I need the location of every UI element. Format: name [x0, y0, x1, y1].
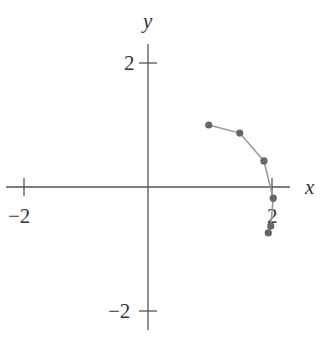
- x-axis-label: x: [304, 175, 315, 199]
- x-tick-label: −2: [8, 204, 30, 228]
- axes: [6, 44, 290, 330]
- data-point-marker: [236, 129, 243, 136]
- data-point-marker: [205, 121, 212, 128]
- y-tick-label: 2: [124, 51, 135, 75]
- y-axis-label: y: [141, 9, 153, 33]
- data-point-marker: [267, 222, 274, 229]
- chart-plot-area: −222−2 x y: [0, 0, 323, 339]
- y-tick-label: −2: [108, 299, 130, 323]
- data-point-marker: [270, 195, 277, 202]
- data-point-marker: [260, 157, 267, 164]
- trajectory-line: [209, 125, 273, 233]
- data-point-marker: [265, 229, 272, 236]
